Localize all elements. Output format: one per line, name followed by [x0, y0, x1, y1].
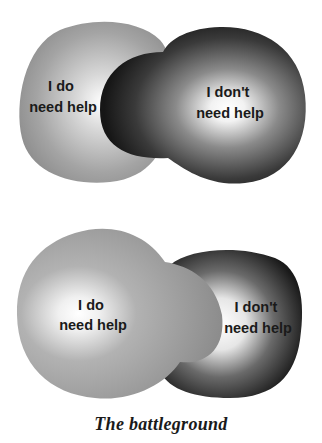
bottom-diagram: I do need help I don't need help: [17, 229, 302, 399]
bottom-left-label-line2: need help: [59, 317, 127, 333]
top-left-label-line2: need help: [29, 99, 97, 115]
battleground-diagram: I do need help I don't need help I do ne…: [0, 0, 322, 443]
bottom-left-label-line1: I do: [78, 297, 104, 313]
top-left-label-line1: I do: [48, 78, 74, 94]
top-right-label-line2: need help: [196, 105, 264, 121]
bottom-right-label-line2: need help: [224, 320, 292, 336]
top-diagram: I do need help I don't need help: [19, 22, 305, 184]
top-right-label-line1: I don't: [207, 84, 250, 100]
bottom-right-label-line1: I don't: [235, 299, 278, 315]
caption: The battleground: [0, 414, 322, 435]
